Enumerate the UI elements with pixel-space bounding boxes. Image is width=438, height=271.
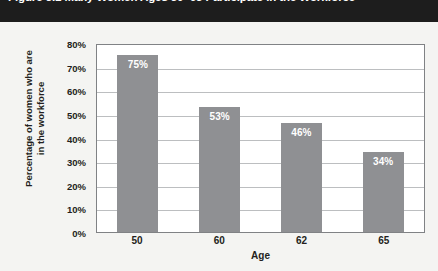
y-axis-tick-label: 30% bbox=[67, 157, 86, 168]
bar-value-label: 46% bbox=[281, 127, 322, 138]
figure-title: Figure 3.1 Many Women Ages 50–65 Partici… bbox=[8, 0, 355, 3]
page-body: Percentage of women who are in the workf… bbox=[0, 22, 438, 271]
bar-slot: 46% bbox=[261, 45, 343, 232]
y-axis-title: Percentage of women who are in the workf… bbox=[23, 24, 46, 214]
y-axis-tick-label: 50% bbox=[67, 109, 86, 120]
bar-chart-figure: Percentage of women who are in the workf… bbox=[0, 22, 438, 271]
figure-title-band: Figure 3.1 Many Women Ages 50–65 Partici… bbox=[0, 0, 438, 22]
bar[interactable]: 34% bbox=[363, 152, 404, 232]
plot-area: 75%53%46%34% bbox=[96, 44, 425, 233]
y-axis-tick-label: 70% bbox=[67, 62, 86, 73]
bar-value-label: 53% bbox=[199, 111, 240, 122]
bar-slot: 75% bbox=[97, 45, 179, 232]
y-axis-tick-labels: 0%10%20%30%40%50%60%70%80% bbox=[44, 38, 90, 233]
y-axis-tick-label: 20% bbox=[67, 180, 86, 191]
bar[interactable]: 46% bbox=[281, 123, 322, 232]
y-axis-tick-label: 0% bbox=[72, 228, 86, 239]
y-axis-title-line1: Percentage of women who are bbox=[23, 50, 34, 187]
bar-slot: 34% bbox=[342, 45, 424, 232]
y-axis-tick-label: 40% bbox=[67, 133, 86, 144]
bar[interactable]: 75% bbox=[117, 55, 158, 232]
y-axis-tick-label: 10% bbox=[67, 204, 86, 215]
y-axis-tick-label: 80% bbox=[67, 39, 86, 50]
x-axis-tick-label: 60 bbox=[178, 235, 260, 251]
x-axis-title: Age bbox=[96, 250, 425, 261]
x-axis-tick-label: 62 bbox=[261, 235, 343, 251]
x-axis-tick-labels: 50606265 bbox=[96, 235, 425, 251]
bar[interactable]: 53% bbox=[199, 107, 240, 232]
y-axis-tick-label: 60% bbox=[67, 86, 86, 97]
bar-slot: 53% bbox=[179, 45, 261, 232]
bar-value-label: 75% bbox=[117, 59, 158, 70]
x-axis-tick-label: 50 bbox=[96, 235, 178, 251]
bar-series: 75%53%46%34% bbox=[97, 45, 424, 232]
x-axis-tick-label: 65 bbox=[343, 235, 425, 251]
bar-value-label: 34% bbox=[363, 156, 404, 167]
